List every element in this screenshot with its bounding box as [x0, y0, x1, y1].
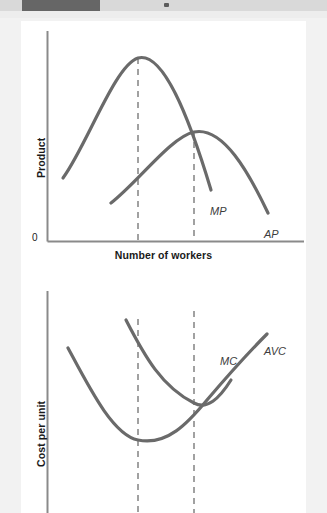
- product-x-axis-label: Number of workers: [21, 249, 306, 261]
- marginal-product-curve-label: MP: [210, 205, 227, 217]
- product-origin-label: 0: [32, 232, 38, 243]
- product-y-axis-label: Product: [35, 138, 47, 178]
- cost-chart-plot: [21, 279, 306, 513]
- top-bar-accent-block: [22, 0, 100, 11]
- average-variable-cost-curve-label: AVC: [264, 345, 286, 357]
- average-variable-cost-curve: [68, 334, 267, 441]
- cost-y-axis-label: Cost per unit: [35, 401, 47, 467]
- top-bar-indicator-dot: [164, 3, 169, 7]
- cost-chart: Cost per unit MC AVC: [21, 279, 306, 513]
- average-product-curve-label: AP: [264, 228, 279, 240]
- window-top-bar: [0, 0, 327, 11]
- figure-panel: Product 0 MP AP Number of workers Cost p…: [21, 21, 306, 513]
- top-bar-shadow: [0, 11, 327, 18]
- marginal-cost-curve-label: MC: [220, 355, 237, 367]
- marginal-product-curve: [63, 57, 211, 190]
- average-product-curve: [111, 131, 268, 213]
- product-chart: Product 0 MP AP Number of workers: [21, 21, 306, 269]
